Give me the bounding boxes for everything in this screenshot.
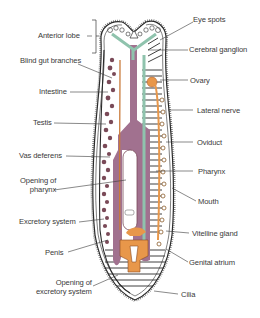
label-opening-of-pharynx: Opening of pharynx	[20, 176, 56, 194]
label-ovary: Ovary	[190, 76, 210, 85]
label-vas-deferens: Vas deferens	[19, 151, 62, 160]
label-vitelline-gland: Vitelline gland	[192, 229, 238, 238]
anterior-lobe-bracket	[92, 20, 99, 53]
label-mouth: Mouth	[198, 197, 219, 206]
label-penis: Penis	[45, 248, 64, 257]
label-blind-gut-branches: Blind gut branches	[20, 56, 81, 65]
label-opening-of-pharynx-line2: pharynx	[20, 185, 56, 194]
label-oviduct: Oviduct	[197, 138, 222, 147]
pharynx	[123, 150, 137, 230]
label-intestine: Intestine	[39, 87, 67, 96]
label-cilia: Cilia	[181, 290, 195, 299]
label-excretory-system: Excretory system	[19, 217, 76, 226]
label-opening-of-excretory-system-line1: Opening of	[36, 278, 92, 287]
label-anterior-lobe: Anterior lobe	[38, 31, 80, 40]
label-opening-of-pharynx-line1: Opening of	[20, 176, 56, 185]
label-opening-of-excretory-system-line2: excretory system	[36, 287, 92, 296]
label-cerebral-ganglion: Cerebral ganglion	[189, 45, 247, 54]
label-lateral-nerve: Lateral nerve	[197, 106, 240, 115]
label-genital-atrium: Genital atrium	[189, 258, 235, 267]
label-eye-spots: Eye spots	[193, 15, 225, 24]
label-pharynx: Pharynx	[198, 167, 225, 176]
label-opening-of-excretory-system: Opening of excretory system	[36, 278, 92, 296]
label-testis: Testis	[33, 118, 52, 127]
